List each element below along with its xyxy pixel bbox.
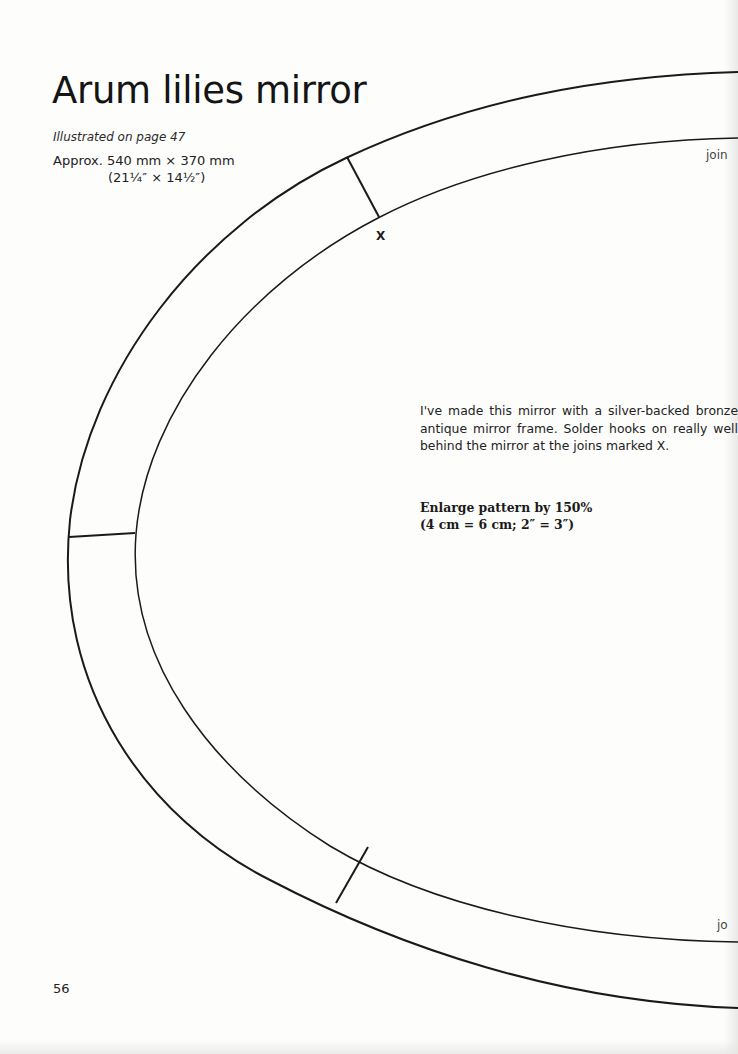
size-metric: Approx. 540 mm × 370 mm bbox=[53, 153, 235, 168]
inner-frame-edge bbox=[135, 138, 738, 942]
enlarge-heading: Enlarge pattern by 150% bbox=[420, 499, 720, 516]
illustrated-reference: Illustrated on page 47 bbox=[53, 130, 185, 144]
segment-join-line-left bbox=[69, 533, 135, 537]
join-label-top: join bbox=[706, 148, 728, 162]
enlarge-instructions: Enlarge pattern by 150% (4 cm = 6 cm; 2″… bbox=[420, 499, 720, 533]
solder-point-x-mark: X bbox=[376, 229, 385, 243]
description-paragraph: I've made this mirror with a silver-back… bbox=[420, 402, 738, 455]
enlarge-detail: (4 cm = 6 cm; 2″ = 3″) bbox=[420, 516, 720, 533]
join-label-bottom: jo bbox=[717, 918, 728, 932]
segment-join-line-top bbox=[347, 157, 379, 217]
outer-frame-edge bbox=[68, 72, 738, 1008]
page-title: Arum lilies mirror bbox=[52, 72, 366, 109]
segment-join-line-bottom bbox=[336, 847, 368, 903]
size-imperial: (21¼″ × 14½″) bbox=[108, 170, 205, 185]
page-number: 56 bbox=[53, 981, 70, 996]
